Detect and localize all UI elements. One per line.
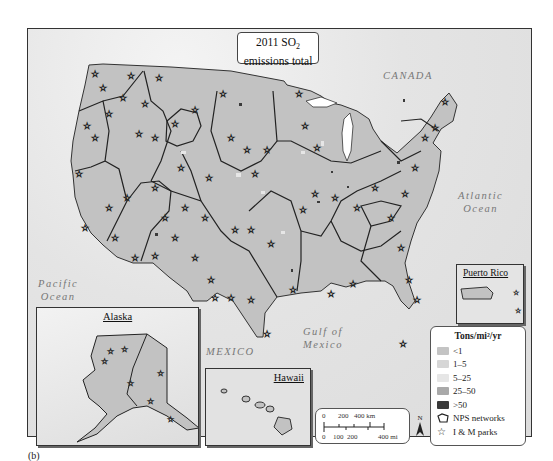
legend-swatch	[437, 347, 449, 355]
svg-text:☆: ☆	[121, 345, 128, 354]
legend-swatch	[437, 360, 449, 368]
scale-mi-200: 200	[347, 433, 358, 441]
svg-text:☆: ☆	[387, 213, 395, 223]
svg-text:☆: ☆	[207, 275, 215, 285]
scale-bar: 0 200 400 km 0 100 200 400 mi	[315, 408, 410, 444]
hawaii-inset: Hawaii	[205, 368, 311, 446]
svg-text:☆: ☆	[247, 225, 255, 235]
label-mexico: MEXICO	[206, 345, 255, 358]
svg-text:☆: ☆	[301, 121, 309, 131]
svg-text:☆: ☆	[211, 293, 219, 303]
svg-text:☆: ☆	[205, 173, 213, 183]
svg-text:☆: ☆	[141, 99, 149, 109]
legend-item: 1–5	[437, 358, 519, 372]
panel-label: (b)	[28, 450, 40, 461]
legend-label: >50	[453, 400, 467, 410]
north-arrow-icon	[415, 422, 425, 436]
scale-mi-100: 100	[333, 433, 344, 441]
legend-label: 25–50	[453, 386, 476, 396]
alaska-title: Alaska	[103, 311, 132, 322]
puerto-rico-title: Puerto Rico	[463, 268, 508, 278]
svg-text:☆: ☆	[289, 285, 297, 295]
alaska-inset: Alaska ☆☆☆ ☆☆☆☆	[36, 307, 199, 446]
svg-text:☆: ☆	[135, 129, 143, 139]
svg-text:☆: ☆	[331, 193, 339, 203]
svg-text:☆: ☆	[219, 89, 227, 99]
svg-text:☆: ☆	[91, 133, 99, 143]
label-pacific-ocean: Pacific Ocean	[38, 277, 78, 303]
svg-text:☆: ☆	[191, 105, 199, 115]
svg-text:☆: ☆	[231, 225, 239, 235]
svg-text:☆: ☆	[105, 203, 113, 213]
svg-text:☆: ☆	[119, 93, 127, 103]
svg-text:☆: ☆	[243, 145, 251, 155]
svg-text:☆: ☆	[353, 203, 361, 213]
legend-label: 5–25	[453, 373, 471, 383]
svg-text:☆: ☆	[397, 243, 405, 253]
nps-network-icon	[437, 413, 449, 423]
label-atlantic-ocean: Atlantic Ocean	[458, 189, 503, 215]
legend-label: I & M parks	[453, 427, 497, 437]
svg-text:☆: ☆	[295, 89, 303, 99]
svg-text:☆: ☆	[83, 121, 91, 131]
svg-text:☆: ☆	[515, 307, 521, 315]
map-title: 2011 SO2 emissions total	[237, 32, 319, 64]
svg-text:☆: ☆	[421, 133, 429, 143]
svg-text:☆: ☆	[227, 293, 235, 303]
svg-text:☆: ☆	[107, 347, 114, 356]
svg-text:☆: ☆	[401, 189, 409, 199]
svg-text:☆: ☆	[167, 415, 174, 424]
svg-text:☆: ☆	[411, 163, 419, 173]
svg-text:☆: ☆	[399, 339, 407, 349]
legend-label: <1	[453, 346, 463, 356]
svg-text:☆: ☆	[127, 71, 135, 81]
svg-text:☆: ☆	[349, 279, 357, 289]
label-canada: CANADA	[383, 69, 433, 82]
svg-text:☆: ☆	[263, 329, 271, 339]
legend-label: 1–5	[453, 359, 467, 369]
svg-text:☆: ☆	[299, 205, 307, 215]
svg-text:☆: ☆	[181, 203, 189, 213]
title-line1: 2011 SO	[256, 36, 296, 48]
legend-item: ☆ I & M parks	[437, 425, 519, 439]
legend-item: >50	[437, 398, 519, 412]
legend-item: 25–50	[437, 385, 519, 399]
north-label: N	[414, 414, 426, 422]
title-line2: emissions total	[238, 54, 318, 68]
legend-swatch	[437, 401, 449, 409]
legend: Tons/mi²/yr <1 1–5 5–25 25–50 >50 NPS ne…	[430, 326, 526, 446]
svg-text:☆: ☆	[157, 369, 164, 378]
svg-text:☆: ☆	[327, 289, 335, 299]
svg-text:☆: ☆	[99, 83, 107, 93]
svg-text:☆: ☆	[405, 275, 413, 285]
svg-text:☆: ☆	[177, 163, 185, 173]
svg-text:☆: ☆	[91, 69, 99, 79]
svg-text:☆: ☆	[267, 239, 275, 249]
svg-text:☆: ☆	[191, 253, 199, 263]
svg-text:☆: ☆	[151, 133, 159, 143]
svg-text:☆: ☆	[131, 253, 139, 263]
svg-text:☆: ☆	[111, 233, 119, 243]
svg-text:☆: ☆	[313, 143, 321, 153]
star-icon: ☆	[437, 426, 449, 437]
svg-text:☆: ☆	[151, 183, 159, 193]
label-gulf-of-mexico: Gulf of Mexico	[303, 325, 343, 351]
svg-text:☆: ☆	[251, 169, 259, 179]
svg-text:☆: ☆	[371, 183, 379, 193]
svg-text:☆: ☆	[161, 213, 169, 223]
svg-text:☆: ☆	[151, 251, 159, 261]
scale-mi-0: 0	[322, 433, 326, 441]
svg-text:☆: ☆	[413, 295, 421, 305]
hawaii-title: Hawaii	[274, 372, 304, 383]
alaska-map: ☆☆☆ ☆☆☆☆	[37, 308, 199, 446]
svg-text:☆: ☆	[123, 193, 131, 203]
svg-text:☆: ☆	[75, 169, 83, 179]
svg-text:☆: ☆	[513, 289, 519, 297]
title-subscript: 2	[296, 42, 300, 51]
svg-text:☆: ☆	[147, 397, 154, 406]
svg-text:☆: ☆	[227, 133, 235, 143]
legend-item: <1	[437, 344, 519, 358]
north-arrow: N	[414, 414, 426, 438]
svg-text:☆: ☆	[431, 123, 439, 133]
svg-text:☆: ☆	[105, 109, 113, 119]
